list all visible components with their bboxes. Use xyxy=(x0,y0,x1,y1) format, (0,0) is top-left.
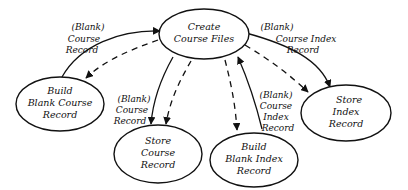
node-build-blank-course-record: Build Blank Course Record xyxy=(16,77,104,131)
svg-text:Store: Store xyxy=(145,135,172,146)
svg-text:Build: Build xyxy=(240,141,266,152)
svg-text:Course: Course xyxy=(68,34,100,44)
svg-text:Record: Record xyxy=(328,118,363,129)
svg-text:Course: Course xyxy=(141,147,176,158)
svg-text:Blank Index: Blank Index xyxy=(224,153,283,164)
svg-text:Record: Record xyxy=(140,159,175,170)
node-build-blank-index-record: Build Blank Index Record xyxy=(210,133,298,187)
svg-text:Blank Course: Blank Course xyxy=(27,97,93,108)
label-blank-course-record-middle: (Blank) Course Record xyxy=(113,94,151,126)
label-blank-course-index-record-middle: (Blank) Course Index Record xyxy=(259,90,294,133)
svg-text:Record: Record xyxy=(113,116,147,126)
svg-text:(Blank): (Blank) xyxy=(71,22,105,32)
svg-text:Course: Course xyxy=(116,105,148,115)
svg-text:Record: Record xyxy=(286,45,320,55)
svg-text:Index: Index xyxy=(262,112,289,122)
svg-text:Record: Record xyxy=(42,109,77,120)
svg-text:Course Index: Course Index xyxy=(276,34,337,44)
svg-text:(Blank): (Blank) xyxy=(259,90,293,100)
flow-build-index-to-create xyxy=(238,57,262,129)
svg-text:Record: Record xyxy=(65,45,99,55)
flow-create-to-build-index-control xyxy=(225,60,237,130)
node-create-course-files: Create Course Files xyxy=(159,9,249,59)
flow-create-to-store-course xyxy=(151,57,173,124)
svg-text:(Blank): (Blank) xyxy=(117,94,151,104)
svg-text:Index: Index xyxy=(332,106,361,117)
label-blank-course-record-left: (Blank) Course Record xyxy=(65,22,105,55)
node-store-course-record: Store Course Record xyxy=(114,125,202,183)
svg-text:Build: Build xyxy=(46,85,72,96)
svg-text:Create: Create xyxy=(188,21,221,32)
data-flow-diagram: Create Course Files Build Blank Course R… xyxy=(0,0,408,190)
svg-text:Course: Course xyxy=(260,101,292,111)
node-store-index-record: Store Index Record xyxy=(301,85,391,141)
svg-text:Record: Record xyxy=(236,165,271,176)
flow-create-to-store-course-control xyxy=(166,61,191,124)
svg-text:Store: Store xyxy=(336,94,363,105)
svg-text:(Blank): (Blank) xyxy=(260,22,294,32)
svg-text:Course Files: Course Files xyxy=(174,33,234,44)
label-blank-course-index-record: (Blank) Course Index Record xyxy=(260,22,336,55)
svg-text:Record: Record xyxy=(261,123,295,133)
